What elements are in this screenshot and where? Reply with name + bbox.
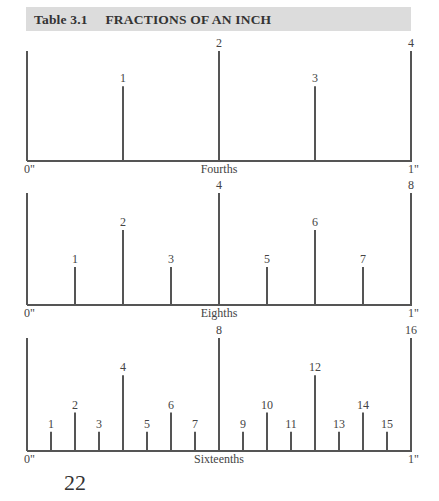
- tick-label: 11: [285, 417, 297, 432]
- tick-label: 10: [261, 398, 273, 413]
- ruler-end-label: 1": [408, 452, 419, 467]
- ruler-sixteenths: 123456789101112131415160"Sixteenths1": [0, 0, 439, 470]
- tick-label: 9: [240, 417, 246, 432]
- ruler-start-label: 0": [24, 452, 35, 467]
- tick-label: 16: [405, 323, 417, 338]
- ruler-name-label: Sixteenths: [194, 452, 244, 467]
- tick-label: 1: [48, 417, 54, 432]
- tick-label: 13: [333, 417, 345, 432]
- tick-label: 15: [381, 417, 393, 432]
- tick-label: 5: [144, 417, 150, 432]
- tick-label: 7: [192, 417, 198, 432]
- tick-label: 8: [216, 323, 222, 338]
- ruler-lines: [0, 0, 439, 470]
- tick-label: 2: [72, 398, 78, 413]
- tick-label: 14: [357, 398, 369, 413]
- page-number: 22: [64, 470, 86, 496]
- tick-label: 4: [120, 360, 126, 375]
- tick-label: 3: [96, 417, 102, 432]
- tick-label: 6: [168, 398, 174, 413]
- tick-label: 12: [309, 360, 321, 375]
